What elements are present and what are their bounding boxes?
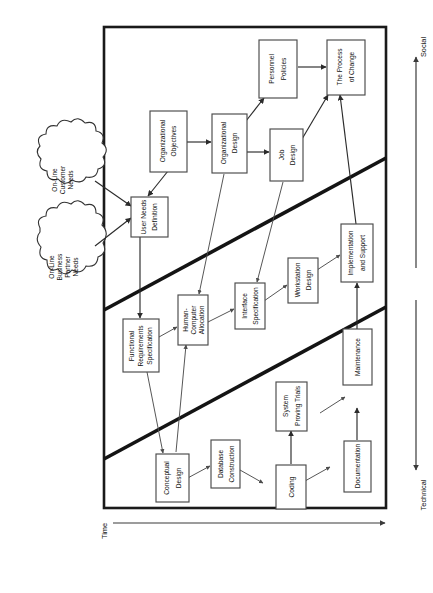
node-label-line-2: Computer [190, 305, 198, 335]
node-human-computer-allocation[interactable]: Human- Computer Allocation [178, 295, 208, 345]
node-organizational-design[interactable]: Organizational Design [212, 114, 247, 173]
axis-label-time: Time [100, 523, 109, 539]
node-label-line-2: Design [305, 269, 313, 290]
node-label-line-3: Allocation [198, 305, 205, 334]
edge-org-design-to-hc-allocation [199, 174, 224, 294]
cloud-label-line-1: On-Line [48, 255, 55, 279]
cloud-label-line-3: Partner [64, 255, 71, 277]
node-label-line-2: Objectives [170, 125, 178, 156]
node-label-line-1: Organizational [220, 121, 228, 164]
edge-functional-requirements-to-conceptual-design [147, 372, 163, 453]
axis-technical: Technical [416, 300, 428, 510]
node-label-line-1: System [282, 395, 290, 417]
node-label-line-1: User Needs [140, 199, 147, 235]
cloud-on-line-business-partner-needs: On-Line Business Partner Needs [37, 201, 106, 281]
edge-interface-spec-to-workstation-design [264, 285, 287, 301]
node-label-line-1: Conceptual [163, 461, 171, 495]
node-database-construction[interactable]: Database Construction [211, 440, 240, 488]
node-label-line-2: Policies [280, 57, 287, 80]
edge-cloud-customer-to-user-needs [95, 181, 131, 206]
edge-org-design-to-personnel-policies [246, 98, 264, 121]
node-label-line-2: Design [231, 132, 239, 153]
node-label-line-2: Construction [228, 445, 235, 482]
node-label-line-2: Definition [151, 203, 158, 231]
node-label-line-1: Job [278, 149, 285, 160]
edge-coding-to-documentation [305, 467, 330, 481]
edge-org-objectives-to-user-needs [148, 171, 168, 196]
edge-hc-allocation-to-interface-spec [208, 309, 234, 322]
node-maintenance[interactable]: Maintenance [343, 329, 372, 385]
node-label-line-2: Design [175, 467, 183, 488]
node-job-design[interactable]: Job Design [270, 129, 303, 181]
node-coding[interactable]: Coding [276, 465, 306, 509]
node-label-line-2: Proving Trials [294, 385, 302, 426]
node-workstation-design[interactable]: Workstation Design [288, 258, 318, 303]
node-label-line-1: Personnel [268, 54, 275, 84]
node-label-line-2: of Change [348, 51, 356, 82]
edge-conceptual-design-to-hc-allocation [176, 345, 186, 452]
cloud-label-line-2: Business [56, 253, 63, 280]
cloud-label-line-4: Needs [72, 257, 79, 277]
node-conceptual-design[interactable]: Conceptual Design [156, 454, 189, 502]
axis-time: Time [100, 523, 385, 539]
axis-social: Social [416, 37, 428, 268]
edge-functional-requirements-to-hc-allocation [159, 327, 177, 337]
node-label-line-2: and Support [359, 235, 367, 271]
cloud-label-line-2: Customer [59, 165, 66, 194]
cloud-on-line-customer-needs: On-Line Customer Needs [37, 119, 106, 195]
axis-label-technical: Technical [419, 479, 428, 510]
node-label-line-1: Functional [128, 330, 135, 361]
node-label-line-1: Database [217, 450, 224, 479]
node-documentation[interactable]: Documentation [344, 441, 371, 492]
edge-database-construction-to-coding [240, 470, 263, 483]
node-label-line-2: Design [289, 144, 297, 165]
node-interface-specification[interactable]: Interface Specification [235, 283, 265, 329]
node-the-process-of-change[interactable]: The Process of Change [327, 40, 365, 95]
edge-workstation-design-to-implementation [317, 255, 340, 270]
socio-technical-diagram: On-Line Customer Needs On-Line Business … [0, 0, 433, 593]
axis-label-social: Social [419, 37, 428, 57]
node-organizational-objectives[interactable]: Organizational Objectives [150, 111, 187, 172]
cloud-label-line-3: Needs [67, 170, 74, 190]
node-system-proving-trials[interactable]: System Proving Trials [276, 382, 307, 431]
node-user-needs-definition[interactable]: User Needs Definition [131, 197, 168, 237]
edge-implementation-to-process-of-change [340, 95, 356, 224]
node-label-line-1: Workstation [294, 262, 301, 297]
cloud-label-line-1: On-Line [51, 168, 58, 192]
node-label-line-1: Maintenance [354, 338, 361, 376]
node-label-line-1: Organizational [159, 119, 167, 162]
node-functional-requirements-specification[interactable]: Functional Requirements Specification [123, 319, 159, 372]
node-label-line-1: Interface [241, 293, 248, 319]
node-label-line-1: The Process [336, 48, 343, 86]
edge-job-design-to-interface-spec [257, 182, 283, 282]
node-label-line-3: Specification [146, 327, 154, 365]
node-label-line-1: Implementation [347, 230, 355, 275]
node-label-line-2: Requirements [137, 325, 145, 367]
node-personnel-policies[interactable]: Personnel Policies [259, 40, 297, 98]
edge-system-proving-trials-to-maintenance [320, 397, 345, 413]
node-implementation-and-support[interactable]: Implementation and Support [341, 224, 373, 282]
node-label-line-2: Specification [252, 287, 260, 325]
node-label-line-1: Human- [182, 308, 189, 331]
node-label-line-1: Coding [288, 476, 296, 497]
node-label-line-1: Documentation [354, 443, 361, 488]
edge-job-design-to-process-of-change [302, 95, 328, 139]
